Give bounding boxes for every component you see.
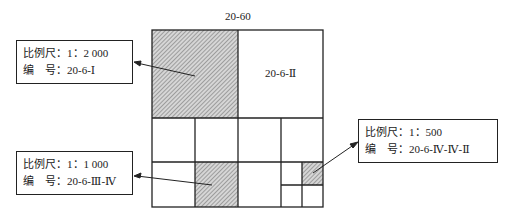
scale-text: 比例尺：1：500 [365, 124, 491, 141]
code-text: 编 号：20-6-Ⅲ-Ⅳ [23, 173, 126, 190]
callout-scale-2000: 比例尺：1：2 000 编 号：20-6-Ⅰ [16, 40, 133, 84]
sheet-ii-label: 20-6-Ⅱ [265, 67, 296, 80]
callout-scale-1000: 比例尺：1：1 000 编 号：20-6-Ⅲ-Ⅳ [16, 151, 133, 195]
code-text: 编 号：20-6-Ⅰ [23, 62, 126, 79]
sheet-iii-iv-shaded [195, 162, 238, 207]
top-sheet-label: 20-60 [225, 10, 251, 22]
scale-text: 比例尺：1：2 000 [23, 45, 126, 62]
sheet-i-shaded [152, 30, 238, 118]
sheet-iv-iv-ii-shaded [302, 162, 323, 185]
code-text: 编 号：20-6-Ⅳ-Ⅳ-Ⅱ [365, 141, 491, 158]
callout-scale-500: 比例尺：1：500 编 号：20-6-Ⅳ-Ⅳ-Ⅱ [358, 119, 498, 163]
scale-text: 比例尺：1：1 000 [23, 156, 126, 173]
